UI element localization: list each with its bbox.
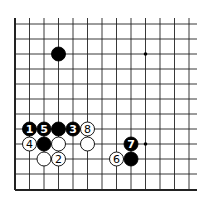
white-stone: 2: [52, 152, 66, 166]
move-number-label: 3: [69, 123, 77, 136]
move-number-label: 4: [26, 138, 33, 151]
black-stone: [124, 152, 138, 166]
black-stone-circle: [52, 122, 66, 136]
black-stone-circle: [37, 137, 51, 151]
move-number-label: 5: [40, 123, 48, 136]
move-number-label: 8: [84, 123, 91, 136]
star-point: [144, 52, 148, 56]
go-board: 12345678: [0, 0, 210, 202]
black-stone-circle: [124, 152, 138, 166]
black-stone-circle: [52, 47, 66, 61]
move-number-label: 6: [113, 153, 120, 166]
white-stone-circle: [37, 152, 51, 166]
black-stone: 3: [66, 122, 80, 136]
move-number-label: 7: [127, 138, 135, 151]
black-stone: [52, 47, 66, 61]
move-number-label: 1: [26, 123, 34, 136]
black-stone: [37, 137, 51, 151]
stones-layer: 12345678: [23, 47, 139, 166]
white-stone-circle: [81, 137, 95, 151]
black-stone: 7: [124, 137, 138, 151]
white-stone: [81, 137, 95, 151]
white-stone: 8: [81, 122, 95, 136]
star-point: [144, 142, 148, 146]
move-number-label: 2: [55, 153, 62, 166]
white-stone-circle: [52, 137, 66, 151]
white-stone: [52, 137, 66, 151]
white-stone: [37, 152, 51, 166]
black-stone: [52, 122, 66, 136]
black-stone: 5: [37, 122, 51, 136]
white-stone: 6: [110, 152, 124, 166]
black-stone: 1: [23, 122, 37, 136]
white-stone: 4: [23, 137, 37, 151]
